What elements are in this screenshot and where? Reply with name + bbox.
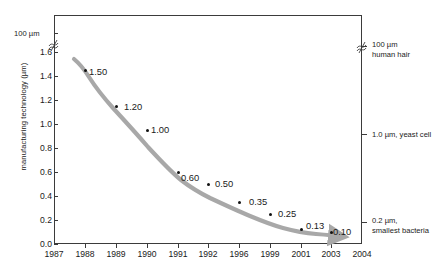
data-point [207, 183, 210, 186]
data-point [177, 171, 180, 174]
data-point [84, 69, 87, 72]
data-point [115, 105, 118, 108]
right-axis-break-icon [357, 42, 366, 53]
data-label: 1.00 [151, 124, 169, 135]
data-label: 0.10 [333, 226, 351, 237]
data-label: 0.25 [278, 208, 296, 219]
data-point [300, 228, 303, 231]
chart-overlay [0, 0, 445, 280]
left-axis-break-icon [49, 40, 58, 51]
chart-figure: manufacturing technology (µm) 100 µm 0.0… [0, 0, 445, 280]
data-label: 0.50 [215, 178, 233, 189]
data-point [269, 213, 272, 216]
data-label: 0.13 [306, 220, 324, 231]
data-label: 0.60 [181, 172, 199, 183]
data-label: 1.50 [89, 66, 107, 77]
data-label: 1.20 [124, 101, 142, 112]
data-point [238, 201, 241, 204]
data-label: 0.35 [249, 196, 267, 207]
data-point [146, 129, 149, 132]
